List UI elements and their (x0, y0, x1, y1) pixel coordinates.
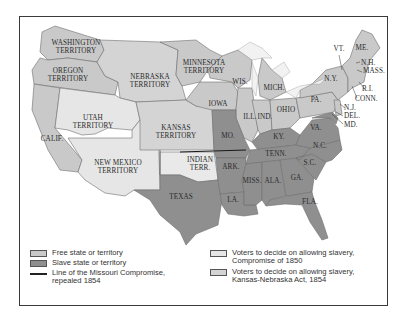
label-ind: IND. (258, 113, 273, 121)
label-ga: GA. (291, 174, 304, 182)
region-new-jersey (334, 100, 342, 116)
legend-label-line2: repealed 1854 (52, 276, 101, 285)
label-conn: CONN. (355, 95, 378, 103)
label-mich: MICH. (263, 84, 284, 92)
label-nh: N.H. (361, 59, 375, 67)
label-nebraska-territory: NEBRASKATERRITORY (130, 73, 171, 89)
legend-item-free: Free state or territory (30, 249, 123, 257)
label-nc: N.C. (313, 142, 327, 150)
region-florida (266, 192, 328, 240)
legend-item-kansas-nebraska: Voters to decide on allowing slavery, Ka… (210, 268, 354, 285)
legend-label-slave: Slave state or territory (52, 259, 126, 267)
legend-label-line2: Compromise of 1850 (232, 256, 303, 265)
label-md: MD. (344, 121, 358, 129)
label-nj: N.J. (344, 104, 356, 112)
legend-label-missouri-line: Line of the Missouri Compromise, repeale… (52, 269, 165, 286)
kansas-nebraska-swatch (210, 269, 227, 276)
free-swatch (30, 250, 47, 257)
label-minnesota-territory: MINNESOTATERRITORY (183, 59, 226, 75)
label-iowa: IOWA (208, 100, 228, 108)
label-wis: WIS. (232, 78, 247, 86)
label-ny: N.Y. (324, 75, 338, 83)
map-legend: Free state or territory Slave state or t… (30, 249, 380, 301)
label-sc: S.C. (304, 159, 317, 167)
label-mass: MASS. (363, 67, 385, 75)
legend-item-missouri-line: Line of the Missouri Compromise, repeale… (30, 269, 165, 286)
label-ohio: OHIO (277, 106, 295, 114)
label-ala: ALA. (265, 177, 282, 185)
legend-label-kansas-nebraska: Voters to decide on allowing slavery, Ka… (232, 268, 354, 285)
label-mo: MO. (221, 132, 235, 140)
label-fla: FLA. (302, 198, 318, 206)
legend-item-slave: Slave state or territory (30, 259, 126, 267)
label-miss: MISS. (242, 177, 261, 185)
label-new-mexico-territory: NEW MEXICOTERRITORY (94, 159, 141, 175)
label-calif: CALIF. (41, 135, 64, 143)
label-ky: KY. (273, 133, 285, 141)
label-la: LA. (227, 196, 239, 204)
legend-label-line2: Kansas-Nebraska Act, 1854 (232, 275, 326, 284)
label-del: DEL. (344, 112, 360, 120)
label-texas: TEXAS (169, 193, 193, 201)
compromise-1850-swatch (210, 250, 227, 257)
label-oregon-territory: OREGONTERRITORY (48, 67, 89, 83)
slave-swatch (30, 260, 47, 267)
legend-item-compromise-1850: Voters to decide on allowing slavery, Co… (210, 249, 354, 266)
legend-label-compromise-1850: Voters to decide on allowing slavery, Co… (232, 249, 354, 266)
label-ark: ARK. (222, 163, 239, 171)
label-va: VA. (310, 124, 322, 132)
label-me: ME. (356, 44, 369, 52)
label-indian-territory: INDIANTERR. (187, 156, 214, 172)
label-ill: ILL. (243, 113, 256, 121)
label-washington-territory: WASHINGTONTERRITORY (52, 39, 101, 55)
missouri-line-swatch (30, 273, 47, 275)
label-ri: R.I. (362, 85, 373, 93)
label-tenn: TENN. (265, 150, 287, 158)
legend-label-free: Free state or territory (52, 249, 123, 257)
region-ohio (270, 98, 300, 130)
label-vt: VT. (333, 45, 344, 53)
label-pa: PA. (311, 96, 322, 104)
